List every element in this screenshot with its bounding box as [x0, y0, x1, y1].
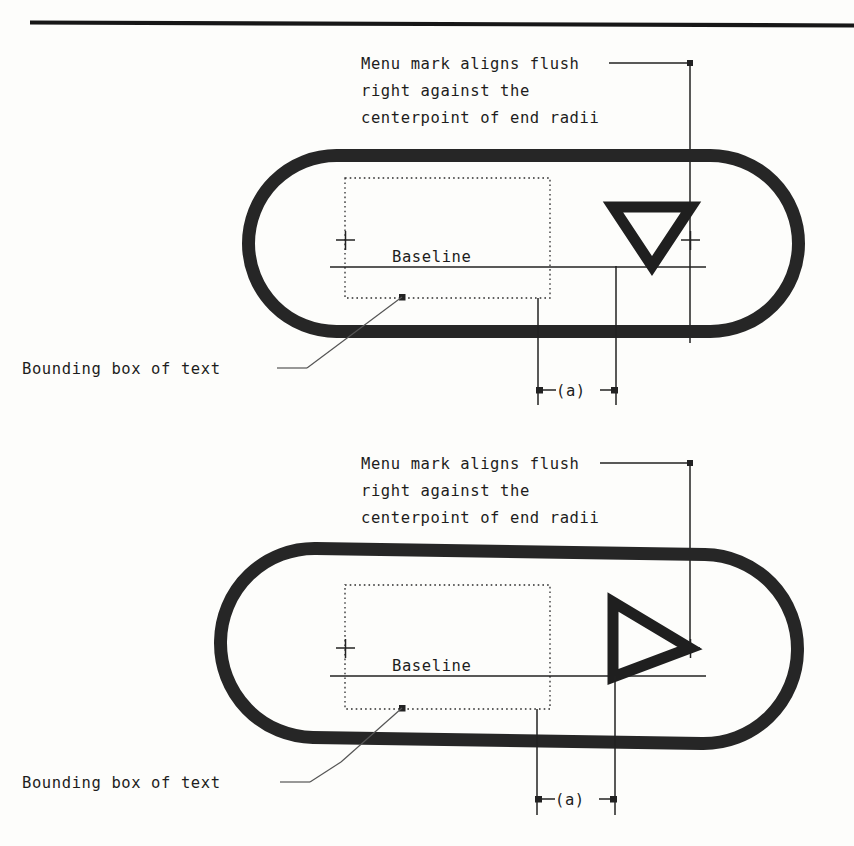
bbox-leader-node [399, 294, 406, 301]
technical-drawing: Menu mark aligns flush right against the… [0, 0, 854, 846]
callout-text-line-2: right against the [361, 82, 530, 100]
bbox-leader-tail [310, 762, 341, 782]
dimension-label: (a) [555, 791, 585, 809]
baseline-label: Baseline [392, 248, 471, 266]
callout-text-line-3: centerpoint of end radii [361, 109, 599, 127]
menu-mark-triangle-right-icon [613, 602, 690, 677]
dimension-tick-left [536, 387, 543, 394]
bounding-box-label: Bounding box of text [22, 360, 221, 378]
callout-text-line-3: centerpoint of end radii [361, 509, 599, 527]
document-page: Menu mark aligns flush right against the… [0, 0, 854, 846]
baseline-label: Baseline [392, 657, 471, 675]
top-rule-divider [30, 23, 854, 26]
callout-text-line-2: right against the [361, 482, 530, 500]
crosshair-right-icon [681, 231, 700, 250]
dimension-label: (a) [556, 382, 586, 400]
callout-text-line-1: Menu mark aligns flush [361, 455, 580, 473]
crosshair-left-icon [336, 231, 355, 250]
dimension-tick-right [610, 796, 617, 803]
menu-mark-triangle-down-icon [613, 207, 691, 266]
capsule-outline [219, 547, 799, 745]
bounding-box-label: Bounding box of text [22, 774, 221, 792]
figure-top: Menu mark aligns flush right against the… [22, 55, 799, 405]
text-bounding-box [345, 585, 550, 709]
dimension-tick-left [535, 796, 542, 803]
callout-text-line-1: Menu mark aligns flush [361, 55, 580, 73]
capsule-outline [249, 156, 799, 332]
figure-bottom: Menu mark aligns flush right against the… [22, 455, 799, 815]
text-bounding-box [345, 178, 550, 298]
crosshair-left-icon [336, 639, 355, 658]
dimension-tick-right [611, 387, 618, 394]
